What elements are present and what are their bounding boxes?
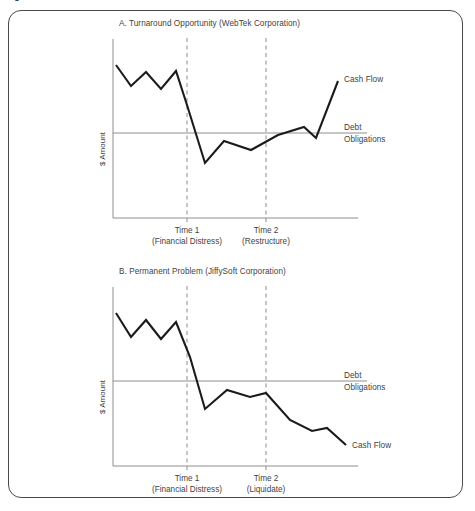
panel-a-chart: $ Amount Cash Flow Debt Obligations Time… (9, 11, 464, 251)
panel-b-cash-flow-label: Cash Flow (352, 441, 391, 450)
panel-b-debt-label-line2: Obligations (344, 383, 386, 392)
panel-a-time1-label: Time 1 (175, 226, 200, 235)
figure-border: A. Turnaround Opportunity (WebTek Corpor… (8, 10, 463, 498)
panel-b-time2-sublabel: (Liquidate) (247, 485, 286, 494)
panel-b-debt-label-line1: Debt (344, 371, 362, 380)
panel-a-time2-label: Time 2 (254, 226, 279, 235)
panel-a-time2-sublabel: (Restructure) (242, 237, 290, 246)
panel-b-time1-label: Time 1 (175, 474, 200, 483)
panel-a-debt-label-line1: Debt (344, 123, 362, 132)
panel-b-chart: $ Amount Debt Obligations Cash Flow Time… (9, 259, 464, 499)
panel-a-debt-label-line2: Obligations (344, 135, 386, 144)
panel-b-cash-flow-line (116, 313, 346, 445)
panel-b-time2-label: Time 2 (254, 474, 279, 483)
panel-a-y-axis-label: $ Amount (98, 131, 107, 166)
figure-caption-clipped: Figure 14.1 (6, 0, 55, 1)
panel-a-time1-sublabel: (Financial Distress) (152, 237, 222, 246)
panel-a-cash-flow-line (116, 65, 338, 163)
figure-container: Figure 14.1 A. Turnaround Opportunity (W… (0, 0, 475, 511)
panel-b-time1-sublabel: (Financial Distress) (152, 485, 222, 494)
panel-a-cash-flow-label: Cash Flow (344, 75, 383, 84)
panel-b: B. Permanent Problem (JiffySoft Corporat… (9, 259, 464, 499)
panel-b-y-axis-label: $ Amount (98, 379, 107, 414)
